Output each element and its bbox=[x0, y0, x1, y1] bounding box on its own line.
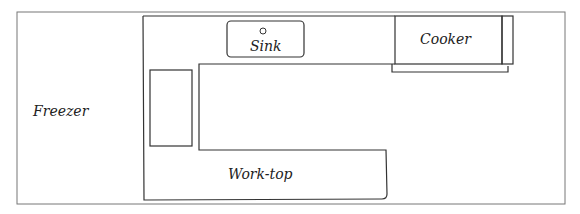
cooker-label: Cooker bbox=[420, 31, 471, 47]
sink-label: Sink bbox=[250, 38, 282, 54]
worktop-label: Work-top bbox=[228, 166, 293, 182]
side-cabinet bbox=[150, 70, 192, 146]
freezer-label: Freezer bbox=[33, 103, 88, 119]
sink-drain-icon bbox=[260, 28, 266, 34]
cooker-side-panel bbox=[502, 16, 513, 64]
cooker-door-bracket bbox=[392, 64, 508, 72]
